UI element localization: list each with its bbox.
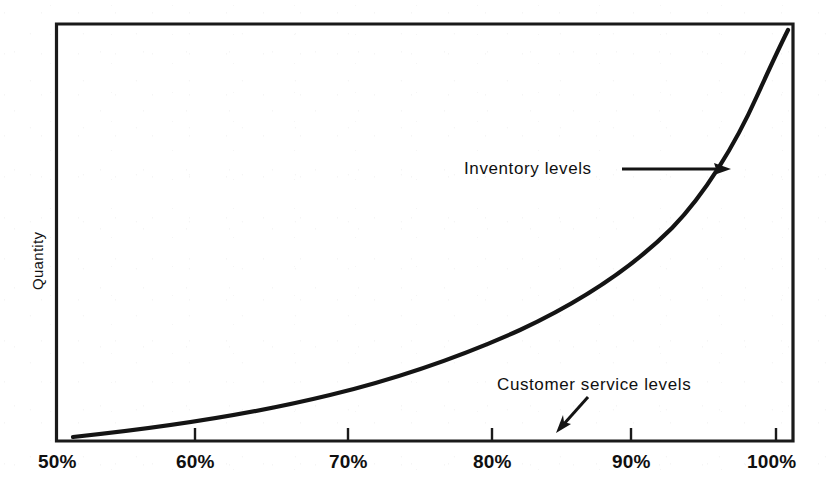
x-axis-ticks [57, 428, 777, 441]
customer-service-levels-annotation-label: Customer service levels [497, 376, 691, 393]
x-tick-label-70: 70% [329, 452, 368, 471]
inventory-annotation-arrow [622, 163, 731, 175]
y-axis-title: Quantity [30, 232, 45, 290]
inventory-levels-annotation-label: Inventory levels [464, 160, 592, 177]
x-tick-label-50: 50% [38, 452, 77, 471]
x-tick-label-80: 80% [473, 452, 512, 471]
chart-figure: Quantity 50% 60% 70% 80% 90% 100% Invent… [0, 0, 830, 489]
x-tick-label-90: 90% [612, 452, 651, 471]
x-tick-label-60: 60% [176, 452, 215, 471]
customer-service-annotation-arrow [556, 397, 588, 433]
customer-service-leader-line [563, 397, 588, 425]
x-tick-label-100: 100% [747, 452, 796, 471]
chart-canvas [0, 0, 830, 489]
